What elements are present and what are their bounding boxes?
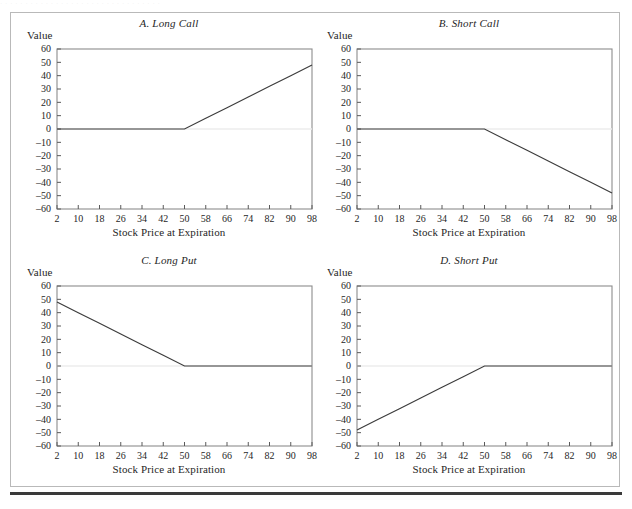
y-tick-label: 20 xyxy=(41,97,51,108)
x-tick-label: 66 xyxy=(522,213,532,224)
x-tick-label: 10 xyxy=(373,450,383,461)
panel-b-plot: 6050403020100–10–20–30–40–50–60210182634… xyxy=(319,16,619,248)
x-tick-label: 50 xyxy=(180,450,190,461)
x-tick-label: 2 xyxy=(355,450,360,461)
x-tick-label: 42 xyxy=(158,450,168,461)
y-tick-label: 30 xyxy=(41,320,51,331)
panel-d-x-axis-label: Stock Price at Expiration xyxy=(319,463,619,475)
y-tick-label: 10 xyxy=(341,347,351,358)
y-tick-label: 10 xyxy=(41,110,51,121)
x-tick-label: 34 xyxy=(137,450,147,461)
y-tick-label: –30 xyxy=(335,400,351,411)
y-tick-label: 0 xyxy=(346,360,351,371)
scan-artifact-strip: · · · · · · · · · · · · · · · · · · · · … xyxy=(0,0,632,9)
x-tick-label: 66 xyxy=(522,450,532,461)
panel-d-plot: 6050403020100–10–20–30–40–50–60210182634… xyxy=(319,253,619,485)
y-tick-label: 30 xyxy=(41,83,51,94)
x-tick-label: 82 xyxy=(565,450,575,461)
y-tick-label: 40 xyxy=(341,70,351,81)
x-tick-label: 58 xyxy=(201,450,211,461)
panel-short-call: B. Short Call Value 6050403020100–10–20–… xyxy=(319,16,619,248)
y-tick-label: 40 xyxy=(41,70,51,81)
y-tick-label: 40 xyxy=(341,307,351,318)
x-tick-label: 42 xyxy=(458,450,468,461)
x-tick-label: 58 xyxy=(201,213,211,224)
y-tick-label: 60 xyxy=(41,43,51,54)
x-tick-label: 2 xyxy=(55,213,60,224)
y-tick-label: –40 xyxy=(35,177,51,188)
y-tick-label: –50 xyxy=(335,190,351,201)
x-tick-label: 98 xyxy=(607,450,617,461)
x-tick-label: 26 xyxy=(116,450,126,461)
panel-long-put: C. Long Put Value 6050403020100–10–20–30… xyxy=(19,253,319,485)
x-tick-label: 74 xyxy=(543,450,553,461)
y-tick-label: –60 xyxy=(335,203,351,214)
y-tick-label: 30 xyxy=(341,83,351,94)
x-tick-label: 66 xyxy=(222,450,232,461)
y-tick-label: 60 xyxy=(341,43,351,54)
y-tick-label: 20 xyxy=(41,334,51,345)
x-tick-label: 18 xyxy=(95,213,105,224)
x-tick-label: 26 xyxy=(116,213,126,224)
y-tick-label: –20 xyxy=(335,387,351,398)
panel-a-plot: 6050403020100–10–20–30–40–50–60210182634… xyxy=(19,16,319,248)
x-tick-label: 10 xyxy=(73,213,83,224)
y-tick-label: –40 xyxy=(335,177,351,188)
y-tick-label: 20 xyxy=(341,97,351,108)
panel-a-x-axis-label: Stock Price at Expiration xyxy=(19,226,319,238)
x-tick-label: 50 xyxy=(180,213,190,224)
y-tick-label: –60 xyxy=(35,440,51,451)
y-tick-label: 10 xyxy=(341,110,351,121)
x-tick-label: 34 xyxy=(437,213,447,224)
x-tick-label: 82 xyxy=(265,213,275,224)
x-tick-label: 18 xyxy=(95,450,105,461)
x-tick-label: 2 xyxy=(355,213,360,224)
x-tick-label: 74 xyxy=(543,213,553,224)
x-tick-label: 90 xyxy=(586,213,596,224)
y-tick-label: 50 xyxy=(341,57,351,68)
y-tick-label: –60 xyxy=(35,203,51,214)
y-tick-label: –10 xyxy=(35,137,51,148)
y-tick-label: –40 xyxy=(335,414,351,425)
section-divider-rule xyxy=(10,492,622,495)
y-tick-label: –30 xyxy=(35,400,51,411)
y-tick-label: 50 xyxy=(41,57,51,68)
y-tick-label: 10 xyxy=(41,347,51,358)
x-tick-label: 58 xyxy=(501,450,511,461)
x-tick-label: 74 xyxy=(243,213,253,224)
x-tick-label: 98 xyxy=(307,450,317,461)
y-tick-label: –50 xyxy=(335,427,351,438)
y-tick-label: –10 xyxy=(335,374,351,385)
y-tick-label: –10 xyxy=(35,374,51,385)
panel-c-plot: 6050403020100–10–20–30–40–50–60210182634… xyxy=(19,253,319,485)
x-tick-label: 66 xyxy=(222,213,232,224)
payoff-line xyxy=(357,129,612,193)
y-tick-label: –10 xyxy=(335,137,351,148)
panel-short-put: D. Short Put Value 6050403020100–10–20–3… xyxy=(319,253,619,485)
y-tick-label: 0 xyxy=(346,123,351,134)
x-tick-label: 82 xyxy=(565,213,575,224)
x-tick-label: 98 xyxy=(607,213,617,224)
y-tick-label: 60 xyxy=(41,280,51,291)
figure-frame: A. Long Call Value 6050403020100–10–20–3… xyxy=(10,12,620,487)
y-tick-label: –20 xyxy=(335,150,351,161)
x-tick-label: 26 xyxy=(416,213,426,224)
y-tick-label: 50 xyxy=(41,294,51,305)
x-tick-label: 90 xyxy=(286,450,296,461)
payoff-line xyxy=(357,366,612,430)
y-tick-label: –50 xyxy=(35,190,51,201)
x-tick-label: 18 xyxy=(395,450,405,461)
x-tick-label: 2 xyxy=(55,450,60,461)
x-tick-label: 42 xyxy=(158,213,168,224)
x-tick-label: 18 xyxy=(395,213,405,224)
y-tick-label: 0 xyxy=(46,360,51,371)
x-tick-label: 74 xyxy=(243,450,253,461)
y-tick-label: 60 xyxy=(341,280,351,291)
y-tick-label: –20 xyxy=(35,387,51,398)
y-tick-label: 0 xyxy=(46,123,51,134)
y-tick-label: 30 xyxy=(341,320,351,331)
x-tick-label: 34 xyxy=(437,450,447,461)
x-tick-label: 50 xyxy=(480,450,490,461)
x-tick-label: 90 xyxy=(586,450,596,461)
x-tick-label: 90 xyxy=(286,213,296,224)
